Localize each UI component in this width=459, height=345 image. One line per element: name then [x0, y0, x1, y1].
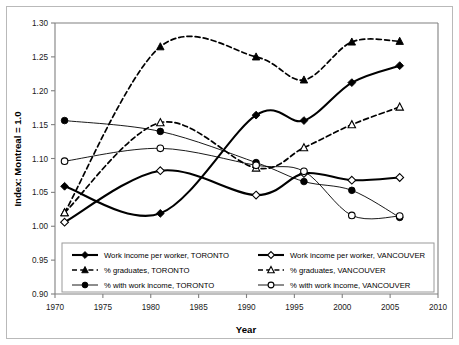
y-tick-label: 1.20 — [32, 87, 48, 96]
data-point-marker — [300, 117, 308, 125]
legend-label: % graduates, TORONTO — [104, 266, 189, 275]
series-line — [65, 107, 400, 213]
x-axis-title: Year — [236, 324, 257, 335]
y-tick-label: 1.25 — [32, 53, 48, 62]
series-layer — [61, 36, 404, 226]
data-point-marker — [301, 178, 308, 185]
y-tick-label: 1.30 — [32, 19, 48, 28]
data-point-marker — [157, 43, 164, 50]
data-point-marker — [348, 121, 355, 128]
line-chart: 0.900.951.001.051.101.151.201.251.30 197… — [0, 0, 459, 345]
y-tick-label: 1.10 — [32, 155, 48, 164]
data-point-marker — [157, 145, 164, 152]
x-tick-label: 1995 — [285, 303, 304, 312]
legend-label: % with work income, VANCOUVER — [290, 281, 411, 290]
y-tick-label: 1.05 — [32, 188, 48, 197]
y-axis-ticks: 0.900.951.001.051.101.151.201.251.30 — [32, 19, 55, 299]
data-point-marker — [396, 213, 403, 220]
series-2 — [61, 117, 403, 220]
x-tick-label: 2010 — [429, 303, 448, 312]
data-point-marker — [301, 168, 308, 175]
data-point-marker — [348, 176, 356, 184]
x-tick-label: 1970 — [46, 303, 65, 312]
series-line — [65, 66, 400, 216]
data-point-marker — [156, 167, 164, 175]
x-tick-label: 1980 — [142, 303, 161, 312]
legend-label: Work income per worker, TORONTO — [104, 251, 229, 260]
y-tick-label: 0.95 — [32, 256, 48, 265]
data-point-marker — [156, 209, 164, 217]
y-tick-label: 1.00 — [32, 222, 48, 231]
y-tick-label: 0.90 — [32, 290, 48, 299]
data-point-marker — [61, 182, 69, 190]
series-line — [65, 121, 400, 218]
x-axis-ticks: 197019751980198519901995200020052010 — [46, 294, 448, 312]
y-tick-label: 1.15 — [32, 121, 48, 130]
y-axis-title: Index: Montreal = 1.0 — [12, 111, 23, 206]
data-point-marker — [349, 212, 356, 219]
x-tick-label: 2000 — [333, 303, 352, 312]
data-point-marker — [349, 187, 356, 194]
data-point-marker — [396, 174, 404, 182]
data-point-marker — [61, 117, 68, 124]
x-tick-label: 1990 — [237, 303, 256, 312]
chart-legend: Work income per worker, TORONTOWork inco… — [62, 243, 434, 292]
legend-label: % graduates, VANCOUVER — [290, 266, 386, 275]
x-tick-label: 1985 — [190, 303, 209, 312]
data-point-marker — [253, 162, 260, 169]
data-point-marker — [396, 103, 403, 110]
legend-label: % with work income, TORONTO — [104, 281, 214, 290]
x-tick-label: 2005 — [381, 303, 400, 312]
data-point-marker — [157, 128, 164, 135]
series-4 — [61, 103, 404, 216]
data-point-marker — [252, 191, 260, 199]
x-tick-label: 1975 — [94, 303, 113, 312]
legend-label: Work income per worker, VANCOUVER — [290, 251, 426, 260]
chart-figure: 0.900.951.001.051.101.151.201.251.30 197… — [0, 0, 459, 345]
data-point-marker — [61, 158, 68, 165]
legend-marker — [82, 282, 88, 288]
legend-marker — [268, 282, 274, 288]
data-point-marker — [396, 62, 404, 70]
